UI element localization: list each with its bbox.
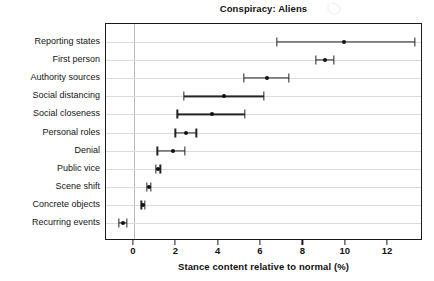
ci-lower-cap bbox=[276, 38, 277, 47]
ci-upper-cap bbox=[288, 74, 289, 83]
data-point-marker bbox=[265, 76, 269, 80]
x-tick-label: 12 bbox=[382, 245, 393, 256]
confidence-interval-line bbox=[277, 41, 415, 42]
data-point-marker bbox=[171, 149, 175, 153]
x-tick-label: 2 bbox=[173, 245, 178, 256]
chart-figure: Conspiracy: Aliens Reporting statesFirst… bbox=[0, 0, 434, 281]
data-point-marker bbox=[121, 221, 125, 225]
chart-title: Conspiracy: Aliens bbox=[105, 3, 422, 14]
y-axis-label: Denial bbox=[0, 145, 100, 155]
data-row bbox=[106, 90, 421, 102]
y-axis-label: Recurring events bbox=[0, 217, 100, 227]
data-row bbox=[106, 72, 421, 84]
ci-upper-cap bbox=[126, 218, 127, 227]
data-point-marker bbox=[222, 94, 226, 98]
y-axis-label: Public vice bbox=[0, 163, 100, 173]
data-row bbox=[106, 163, 421, 175]
y-axis-label: Reporting states bbox=[0, 36, 100, 46]
x-axis-title: Stance content relative to normal (%) bbox=[105, 261, 422, 272]
ci-upper-cap bbox=[184, 146, 185, 155]
ci-lower-cap bbox=[243, 74, 244, 83]
data-row bbox=[106, 54, 421, 66]
ci-lower-cap bbox=[118, 218, 119, 227]
data-row bbox=[106, 199, 421, 211]
ci-lower-cap bbox=[175, 128, 176, 137]
data-point-marker bbox=[184, 131, 188, 135]
x-tick-label: 6 bbox=[257, 245, 262, 256]
ci-upper-cap bbox=[196, 128, 197, 137]
data-row bbox=[106, 145, 421, 157]
y-axis-label: Personal roles bbox=[0, 127, 100, 137]
data-row bbox=[106, 217, 421, 229]
ci-lower-cap bbox=[183, 92, 184, 101]
data-point-marker bbox=[323, 58, 327, 62]
data-point-marker bbox=[147, 185, 151, 189]
chart-title-container: Conspiracy: Aliens bbox=[105, 3, 422, 14]
y-axis-label: Scene shift bbox=[0, 181, 100, 191]
data-point-marker bbox=[156, 167, 160, 171]
data-point-marker bbox=[210, 112, 214, 116]
x-tick-label: 10 bbox=[339, 245, 350, 256]
x-tick-label: 8 bbox=[300, 245, 305, 256]
x-axis-tick-labels: 024681012 bbox=[105, 245, 422, 259]
ci-lower-cap bbox=[177, 110, 178, 119]
data-row bbox=[106, 36, 421, 48]
data-row bbox=[106, 127, 421, 139]
y-axis-label: Social distancing bbox=[0, 90, 100, 100]
ci-upper-cap bbox=[244, 110, 245, 119]
plot-area bbox=[105, 23, 422, 240]
data-point-marker bbox=[342, 40, 346, 44]
y-axis-label: Social closeness bbox=[0, 108, 100, 118]
ci-lower-cap bbox=[157, 146, 158, 155]
data-row bbox=[106, 181, 421, 193]
ci-lower-cap bbox=[315, 56, 316, 65]
data-point-marker bbox=[141, 203, 145, 207]
y-axis-label: First person bbox=[0, 54, 100, 64]
y-axis-label: Concrete objects bbox=[0, 199, 100, 209]
ci-upper-cap bbox=[414, 38, 415, 47]
y-axis-label: Authority sources bbox=[0, 72, 100, 82]
ci-upper-cap bbox=[264, 92, 265, 101]
ci-upper-cap bbox=[333, 56, 334, 65]
x-tick-label: 0 bbox=[130, 245, 135, 256]
x-tick-label: 4 bbox=[215, 245, 220, 256]
data-row bbox=[106, 108, 421, 120]
